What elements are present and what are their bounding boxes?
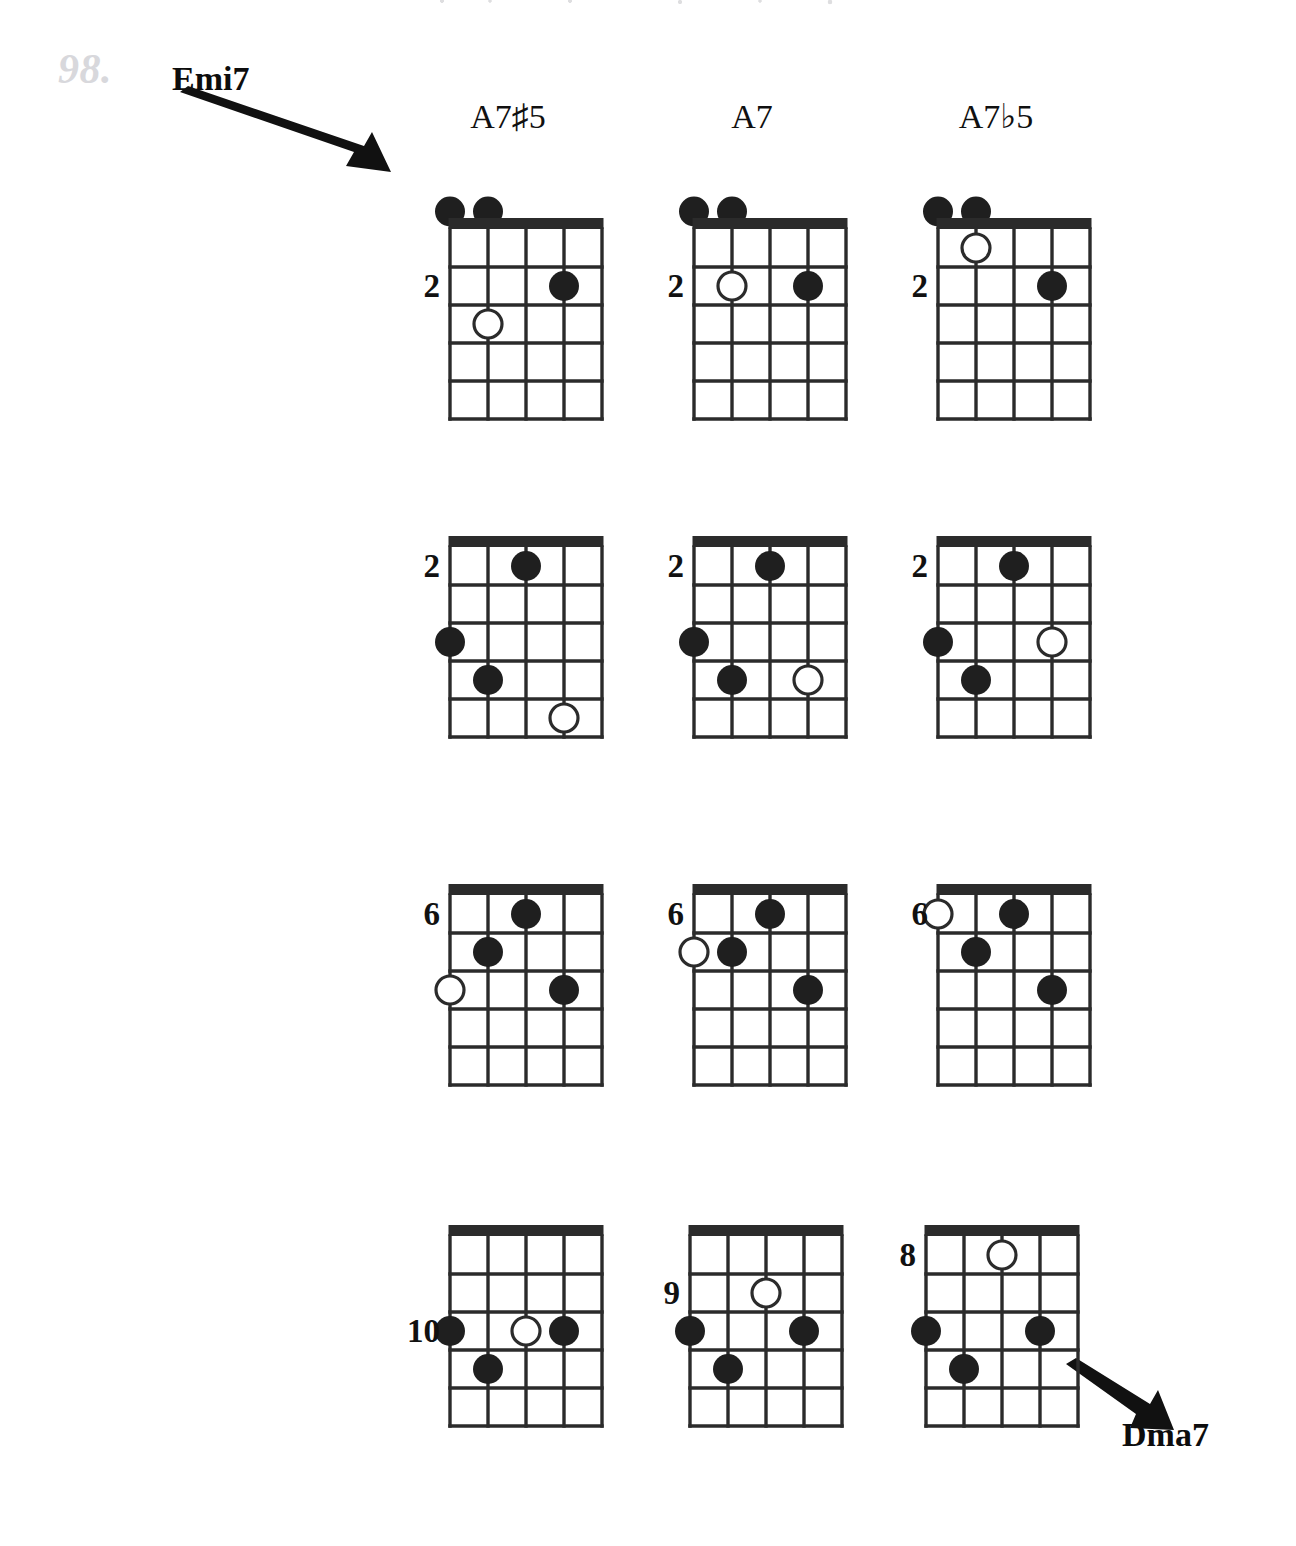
fret-position-number: 6 [424, 898, 441, 931]
fretted-note-dot [1025, 1316, 1055, 1346]
fretted-note-dot [999, 899, 1029, 929]
fretted-note-dot [435, 627, 465, 657]
fretted-note-dot [793, 271, 823, 301]
optional-note-circle [988, 1241, 1016, 1269]
fretted-note-dot [755, 899, 785, 929]
column-header-a7: A7 [731, 100, 773, 134]
fretted-note-dot [473, 1354, 503, 1384]
fretted-note-dot [789, 1316, 819, 1346]
chord-diagram-row1-A7: 2 [676, 185, 864, 429]
fret-position-number: 8 [900, 1239, 917, 1272]
chord-diagram-row1-A7♭5: 2 [920, 185, 1108, 429]
column-header-a7sharp5: A7♯5 [470, 100, 546, 134]
chord-diagram-row4-A7: 9 [672, 1222, 860, 1436]
fret-position-number: 2 [668, 270, 685, 303]
fretted-note-dot [549, 975, 579, 1005]
fretted-note-dot [675, 1316, 705, 1346]
fretted-note-dot [999, 551, 1029, 581]
callout-label-emi7: Emi7 [172, 62, 249, 96]
callout-label-dma7: Dma7 [1122, 1418, 1209, 1452]
optional-note-circle [752, 1279, 780, 1307]
fretted-note-dot [793, 975, 823, 1005]
fretted-note-dot [511, 551, 541, 581]
optional-note-circle [794, 666, 822, 694]
fret-position-number: 2 [912, 550, 929, 583]
fretted-note-dot [961, 665, 991, 695]
callout-arrow-emi7 [176, 86, 406, 176]
chord-diagram-row3-A7♭5: 6 [920, 881, 1108, 1095]
fretted-note-dot [511, 899, 541, 929]
fretted-note-dot [713, 1354, 743, 1384]
fretted-note-dot [679, 627, 709, 657]
chord-diagram-row3-A7♯5: 6 [432, 881, 620, 1095]
fret-position-number: 10 [407, 1315, 440, 1348]
fretted-note-dot [755, 551, 785, 581]
fretted-note-dot [717, 665, 747, 695]
fretted-note-dot [911, 1316, 941, 1346]
optional-note-circle [474, 310, 502, 338]
page-number: 98. [58, 48, 112, 90]
optional-note-circle [718, 272, 746, 300]
scan-artifact-top [430, 0, 880, 6]
fretted-note-dot [473, 937, 503, 967]
fret-position-number: 2 [912, 270, 929, 303]
fret-position-number: 6 [668, 898, 685, 931]
optional-note-circle [924, 900, 952, 928]
chord-diagram-row4-A7♭5: 8 [908, 1222, 1096, 1436]
fret-position-number: 6 [912, 898, 929, 931]
fretted-note-dot [473, 665, 503, 695]
fretted-note-dot [961, 937, 991, 967]
fretted-note-dot [549, 271, 579, 301]
optional-note-circle [436, 976, 464, 1004]
fret-position-number: 2 [668, 550, 685, 583]
fret-position-number: 2 [424, 270, 441, 303]
chord-diagram-row2-A7: 2 [676, 533, 864, 747]
optional-note-circle [1038, 628, 1066, 656]
optional-note-circle [550, 704, 578, 732]
column-header-a7flat5: A7♭5 [959, 100, 1034, 134]
chord-diagram-row3-A7: 6 [676, 881, 864, 1095]
fretted-note-dot [923, 627, 953, 657]
optional-note-circle [962, 234, 990, 262]
fretted-note-dot [949, 1354, 979, 1384]
chord-diagram-row4-A7♯5: 10 [432, 1222, 620, 1436]
fretted-note-dot [1037, 975, 1067, 1005]
fret-position-number: 9 [664, 1277, 681, 1310]
chord-diagram-row1-A7♯5: 2 [432, 185, 620, 429]
fret-position-number: 2 [424, 550, 441, 583]
fretted-note-dot [1037, 271, 1067, 301]
chord-diagram-row2-A7♭5: 2 [920, 533, 1108, 747]
fretted-note-dot [717, 937, 747, 967]
fretted-note-dot [549, 1316, 579, 1346]
optional-note-circle [680, 938, 708, 966]
chord-diagram-row2-A7♯5: 2 [432, 533, 620, 747]
optional-note-circle [512, 1317, 540, 1345]
